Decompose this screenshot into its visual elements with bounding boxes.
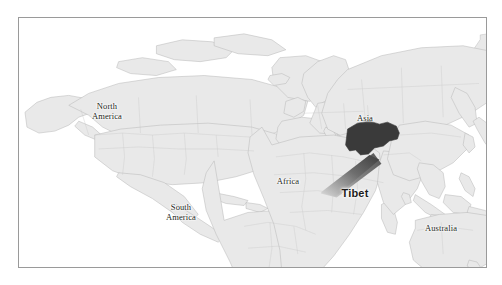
map-canvas xyxy=(19,18,486,267)
world-map-svg xyxy=(19,18,486,267)
world-map-figure: North America South America Africa Asia … xyxy=(0,0,502,285)
map-frame: North America South America Africa Asia … xyxy=(18,17,487,268)
landmass-australia xyxy=(409,212,486,267)
